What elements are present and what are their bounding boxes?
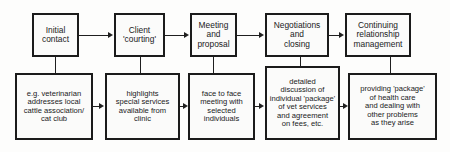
stage-connector-2-3 [165,35,185,36]
detail-arrowhead-1-2 [99,103,104,109]
detail-label-2: highlights special services available fr… [109,90,176,124]
detail-label-4: detailed discussion of individual 'packa… [269,78,336,129]
vertical-connector-5 [390,57,391,73]
stage-box-negotiations-and-closing[interactable]: Negotiations and closing [265,13,329,57]
detail-arrowhead-3-4 [259,103,264,109]
stage-arrowhead-1-2 [108,32,113,38]
detail-box-veterinarian-outreach[interactable]: e.g. veterinarian addresses local cattle… [15,73,93,140]
stage-box-client-courting[interactable]: Client 'courting' [114,13,165,57]
detail-label-3: face to face meeting with selected indiv… [192,90,251,124]
vertical-connector-4 [300,57,301,66]
stage-label-3: Meeting and proposal [194,21,233,49]
detail-box-detailed-discussion[interactable]: detailed discussion of individual 'packa… [265,66,340,140]
stage-connector-1-2 [79,35,109,36]
stage-connector-3-4 [237,35,260,36]
vertical-connector-2 [140,57,141,73]
stage-arrowhead-3-4 [259,32,264,38]
vertical-connector-1 [55,57,56,73]
detail-arrowhead-4-5 [343,103,348,109]
stage-label-1: Initial contact [36,26,75,45]
detail-box-highlights-special-services[interactable]: highlights special services available fr… [105,73,180,140]
vertical-connector-3 [213,57,214,73]
stage-label-4: Negotiations and closing [269,21,325,49]
stage-arrowhead-2-3 [184,32,189,38]
detail-label-1: e.g. veterinarian addresses local cattle… [19,90,89,124]
flowchart-diagram: Initial contact Client 'courting' Meetin… [0,0,450,152]
stage-label-2: Client 'courting' [118,26,161,45]
detail-box-providing-package[interactable]: providing 'package' of health care and d… [348,73,437,140]
stage-label-5: Continuing relationship management [349,21,407,49]
stage-box-continuing-relationship-management[interactable]: Continuing relationship management [345,13,411,57]
stage-box-initial-contact[interactable]: Initial contact [32,13,79,57]
detail-label-5: providing 'package' of health care and d… [352,85,433,128]
stage-box-meeting-and-proposal[interactable]: Meeting and proposal [190,13,237,57]
detail-arrowhead-2-3 [183,103,188,109]
stage-arrowhead-4-5 [339,32,344,38]
detail-box-face-to-face-meeting[interactable]: face to face meeting with selected indiv… [188,73,255,140]
